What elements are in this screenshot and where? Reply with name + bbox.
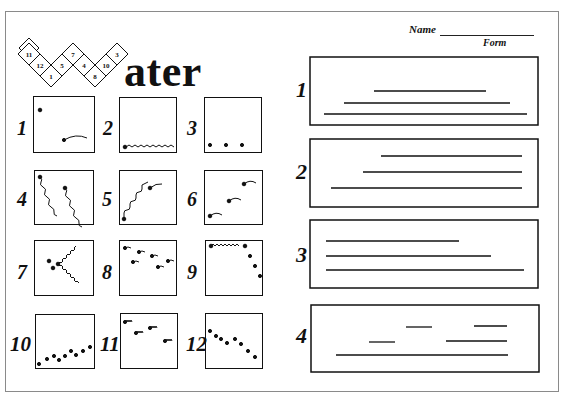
- pattern-box-2: [310, 139, 538, 207]
- pattern-box-4: [311, 305, 539, 372]
- pattern-boxes: [0, 0, 567, 401]
- pattern-box-3: [310, 220, 538, 288]
